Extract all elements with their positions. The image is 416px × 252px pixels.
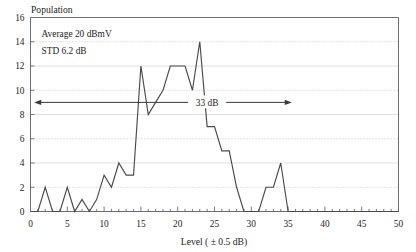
y-tick-label-6: 6 bbox=[20, 134, 25, 144]
x-tick-label-45: 45 bbox=[357, 219, 367, 229]
x-tick-label-0: 0 bbox=[28, 219, 33, 229]
y-tick-label-0: 0 bbox=[20, 207, 25, 217]
chart-canvas: 0246810121416 05101520253035404550 Popul… bbox=[0, 0, 416, 252]
span-label: 33 dB bbox=[196, 98, 219, 108]
y-tick-label-8: 8 bbox=[20, 110, 25, 120]
x-tick-label-20: 20 bbox=[173, 219, 183, 229]
y-axis-title: Population bbox=[31, 4, 73, 15]
population-level-chart: 0246810121416 05101520253035404550 Popul… bbox=[0, 0, 416, 252]
average-note-label: Average 20 dBmV bbox=[42, 29, 112, 39]
y-tick-label-14: 14 bbox=[15, 37, 25, 47]
std-note-label: STD 6.2 dB bbox=[42, 46, 87, 56]
x-tick-label-35: 35 bbox=[283, 219, 293, 229]
x-tick-label-5: 5 bbox=[65, 219, 70, 229]
x-tick-label-40: 40 bbox=[320, 219, 330, 229]
x-axis-title: Level ( ± 0.5 dB) bbox=[181, 236, 247, 248]
y-tick-label-12: 12 bbox=[15, 61, 25, 71]
x-tick-label-25: 25 bbox=[210, 219, 220, 229]
y-tick-label-2: 2 bbox=[20, 183, 25, 193]
x-tick-label-15: 15 bbox=[136, 219, 146, 229]
y-tick-label-16: 16 bbox=[15, 13, 25, 23]
y-tick-label-10: 10 bbox=[15, 86, 25, 96]
x-tick-label-10: 10 bbox=[99, 219, 109, 229]
x-tick-label-50: 50 bbox=[394, 219, 404, 229]
y-tick-label-4: 4 bbox=[20, 158, 25, 168]
x-tick-label-30: 30 bbox=[247, 219, 257, 229]
